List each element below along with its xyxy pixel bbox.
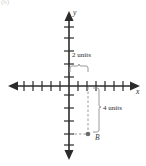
y-axis-label: y [73,9,76,17]
point-b-marker [86,132,91,137]
x-axis-left-arrow-icon [8,82,18,91]
vertical-measure-label: 4 units [103,105,122,112]
four-units-brace [93,88,101,132]
x-axis-label: x [136,88,139,96]
point-b-label: B [95,134,100,142]
y-axis-down-arrow-icon [65,150,74,160]
graph-canvas [0,0,146,166]
two-units-brace [70,64,88,72]
horizontal-measure-label: 2 units [72,52,91,59]
coordinate-plane-figure: (b) [0,0,146,166]
